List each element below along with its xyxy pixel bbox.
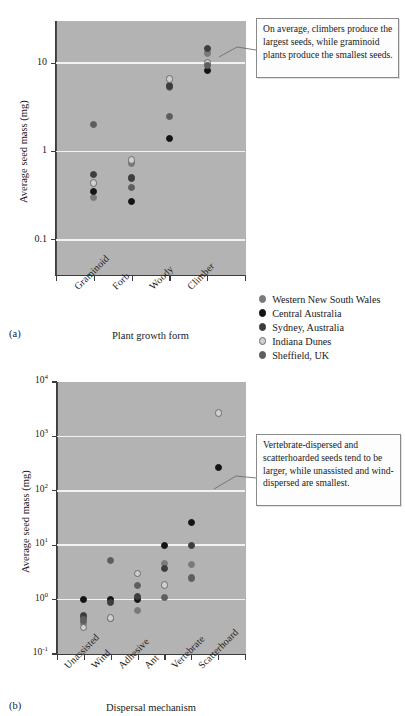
x-tick (132, 275, 133, 281)
data-point (134, 593, 141, 600)
legend-marker-icon (259, 323, 266, 330)
x-tick (57, 654, 58, 660)
data-point (166, 113, 173, 120)
y-tick-label: 103 (0, 430, 48, 440)
data-point (128, 174, 135, 181)
gridline (56, 151, 245, 153)
y-axis-line (55, 21, 56, 275)
data-point (215, 409, 222, 416)
data-point (188, 561, 195, 568)
legend-item-4[interactable]: Indiana Dunes (259, 334, 380, 348)
legend-marker-icon (259, 337, 266, 344)
data-point (107, 557, 114, 564)
data-point (128, 156, 135, 163)
panel-label-b: (b) (9, 700, 21, 711)
gridline (57, 544, 245, 546)
gridline (56, 239, 245, 241)
legend-label: Central Australia (272, 308, 341, 319)
x-tick (245, 654, 246, 660)
y-tick-label: 104 (0, 376, 48, 386)
y-tick-label: 100 (0, 594, 48, 604)
annotation-callout-a: On average, climbers produce the largest… (256, 18, 399, 78)
data-point (166, 82, 173, 89)
data-point (107, 614, 114, 621)
y-tick-label: 0.1 (0, 234, 47, 244)
legend-marker-icon (259, 351, 266, 358)
data-point (161, 594, 168, 601)
panel-b: 10410310210110010-1 UnassistedWindAdhesi… (0, 360, 405, 716)
legend-item-3[interactable]: Sydney, Australia (259, 320, 380, 334)
gridline (57, 490, 245, 492)
annotation-callout-b: Vertebrate-dispersed and scatterhoarded … (256, 434, 401, 506)
y-axis-line (56, 382, 57, 654)
gridline (57, 436, 245, 438)
legend-label: Indiana Dunes (272, 336, 331, 347)
panel-label-a: (a) (9, 328, 21, 339)
data-point (90, 179, 97, 186)
legend-marker-icon (259, 309, 266, 316)
legend-label: Sydney, Australia (272, 322, 344, 333)
data-point (188, 519, 195, 526)
x-axis-title-a: Plant growth form (46, 330, 255, 341)
gridlines-a (56, 21, 245, 275)
x-tick (245, 275, 246, 281)
y-tick-label: 10-1 (0, 648, 48, 658)
x-tick (164, 654, 165, 660)
y-axis-title-a: Average seed mass (mg) (18, 100, 29, 203)
x-axis-title-b: Dispersal mechanism (47, 702, 255, 713)
x-tick (56, 275, 57, 281)
data-point (188, 574, 195, 581)
legend-marker-icon (259, 295, 266, 302)
data-point (161, 581, 168, 588)
legend-item-2[interactable]: Central Australia (259, 306, 380, 320)
y-tick-label: 10 (0, 57, 47, 67)
legend: Western New South WalesCentral Australia… (259, 292, 380, 362)
data-point (166, 75, 173, 82)
data-point (215, 464, 222, 471)
legend-label: Sheffield, UK (272, 350, 329, 361)
legend-item-1[interactable]: Western New South Wales (259, 292, 380, 306)
gridline (56, 62, 245, 64)
data-point (204, 62, 211, 69)
y-axis-title-b: Average seed mass (mg) (20, 470, 31, 573)
legend-label: Western New South Wales (272, 294, 380, 305)
